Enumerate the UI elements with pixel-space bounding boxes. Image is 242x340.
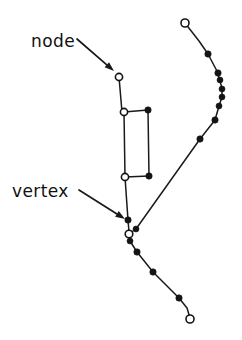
annotations-layer: nodevertex [12,31,125,219]
filled-vertex-marker-11 [176,295,182,301]
filled-vertex-marker-5 [125,217,131,223]
vertex-marker [125,230,133,238]
filled-vertex-marker-6 [133,226,139,232]
filled-vertex-marker-4 [146,173,152,179]
filled-vertex-marker-15 [215,70,221,76]
filled-vertex-marker-19 [216,103,222,109]
filled-vertex-marker-20 [212,117,218,123]
path-rect-right-edge [148,110,149,176]
vertex-label: vertex [12,181,69,201]
filled-vertex-marker-18 [219,94,225,100]
diagram-canvas: nodevertex [0,0,242,340]
filled-vertex-marker-9 [134,249,140,255]
open-node-marker-3 [121,173,128,180]
node-label: node [31,31,75,51]
open-node-marker-1 [120,108,127,115]
diagram-svg: nodevertex [0,0,242,340]
filled-vertex-marker-8 [127,238,133,244]
markers-layer [115,19,225,323]
polyline-paths-layer [119,23,222,318]
filled-vertex-marker-14 [205,51,211,57]
vertex-arrow-head-icon [115,211,125,219]
open-node-marker-13 [181,19,189,27]
node-arrow-line [77,39,107,65]
path-rect-left-edge [124,112,125,177]
node-marker [115,73,122,80]
filled-vertex-marker-10 [150,269,156,275]
path-lower-stem-to-vertex [125,177,129,232]
filled-vertex-marker-17 [219,86,225,92]
vertex-arrow-line [79,190,117,214]
filled-vertex-marker-16 [217,77,223,83]
path-vertex-to-bottom-tail [129,234,190,318]
path-upper-stem [119,77,122,112]
open-node-marker-12 [186,315,194,323]
filled-vertex-marker-2 [145,107,151,113]
filled-vertex-marker-21 [197,136,203,142]
